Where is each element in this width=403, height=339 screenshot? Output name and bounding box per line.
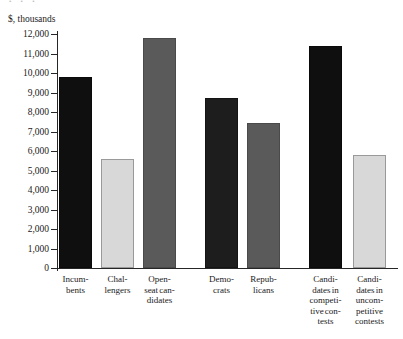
bar [59,77,92,268]
y-axis-tick-label: 0 [3,263,49,273]
y-axis-tick [51,34,57,35]
bar [101,159,134,268]
category-label-line: Demo- [199,274,244,285]
x-axis-category-label: Candi-dates incompeti-tive con-tests [303,274,348,327]
y-axis-tick [51,268,57,269]
bar [309,46,342,268]
category-label-line: licans [241,285,286,296]
x-axis-category-label: Candi-dates inuncom-petitivecontests [347,274,392,327]
y-axis-tick-label: 3,000 [3,205,49,215]
category-label-line: Incum- [53,274,98,285]
category-label-line: uncom- [347,295,392,306]
category-label-line: seat can- [137,285,182,296]
y-axis-tick [51,249,57,250]
bar [247,123,280,268]
category-label-line: tests [303,316,348,327]
category-label-line: Open- [137,274,182,285]
bar [353,155,386,268]
bar-chart-plot-area: 12,00011,00010,0009,0008,0007,0006,0005,… [57,34,398,268]
x-axis-category-label: Demo-crats [199,274,244,295]
y-axis-tick-label: 8,000 [3,107,49,117]
cropped-header-text: · · · [8,0,38,9]
y-axis-tick [51,229,57,230]
bar [143,38,176,268]
y-axis-tick-label: 10,000 [3,68,49,78]
category-label-line: dates in [303,285,348,296]
category-label-line: didates [137,295,182,306]
category-label-line: lengers [95,285,140,296]
category-label-line: Chal- [95,274,140,285]
x-axis-line [51,268,398,269]
y-axis-tick-label: 6,000 [3,146,49,156]
y-axis-tick [51,210,57,211]
y-axis-tick-label: 12,000 [3,29,49,39]
category-label-line: competi- [303,295,348,306]
x-axis-category-label: Repub-licans [241,274,286,295]
y-axis-tick [51,93,57,94]
y-axis-tick-label: 9,000 [3,88,49,98]
category-label-line: Repub- [241,274,286,285]
y-axis-tick-label: 5,000 [3,166,49,176]
x-axis-category-label: Chal-lengers [95,274,140,295]
y-axis-tick-label: 11,000 [3,49,49,59]
y-axis-tick-label: 4,000 [3,185,49,195]
y-axis-tick-label: 2,000 [3,224,49,234]
y-axis-line [57,31,58,271]
y-axis-tick-label: 1,000 [3,244,49,254]
category-label-line: crats [199,285,244,296]
y-axis-tick [51,171,57,172]
y-axis-tick [51,132,57,133]
y-axis-tick [51,54,57,55]
y-axis-tick [51,151,57,152]
category-label-line: Candi- [347,274,392,285]
bar [205,98,238,268]
y-axis-tick [51,190,57,191]
category-label-line: dates in [347,285,392,296]
category-label-line: contests [347,316,392,327]
y-axis-unit-label: $, thousands [8,14,56,24]
category-label-line: Candi- [303,274,348,285]
category-label-line: bents [53,285,98,296]
y-axis-tick-label: 7,000 [3,127,49,137]
y-axis-tick [51,73,57,74]
category-label-line: tive con- [303,306,348,317]
category-label-line: petitive [347,306,392,317]
x-axis-category-label: Incum-bents [53,274,98,295]
y-axis-tick [51,112,57,113]
x-axis-category-label: Open-seat can-didates [137,274,182,306]
